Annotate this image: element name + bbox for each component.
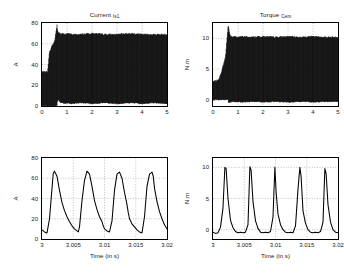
y-axis-label-torque-zoom: N.m (183, 178, 190, 218)
x-tick-label: 3.005 (237, 242, 252, 248)
x-tick-label: 3.02 (332, 242, 344, 248)
x-tick-label: 3.01 (270, 242, 282, 248)
y-tick-label: 10 (186, 164, 209, 170)
x-axis-label-torque-zoom: Time (in s) (212, 252, 339, 259)
plot-canvas-torque-zoom (213, 158, 338, 239)
axes-torque-zoom (212, 157, 339, 240)
y-tick-label: 0 (186, 227, 209, 233)
x-tick-label: 3.015 (299, 242, 314, 248)
x-tick-label: 3 (211, 242, 214, 248)
